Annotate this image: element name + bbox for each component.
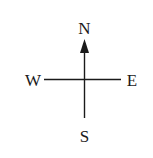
north-label: N	[78, 19, 90, 38]
south-label: S	[80, 127, 89, 146]
west-label: W	[25, 71, 42, 90]
north-arrow-icon	[80, 39, 89, 53]
compass-rose: N S W E	[0, 0, 153, 158]
compass-graphic: N S W E	[0, 0, 153, 158]
east-label: E	[127, 71, 137, 90]
